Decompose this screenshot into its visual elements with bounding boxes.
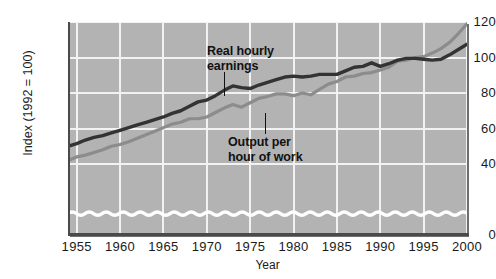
axis-break-wave xyxy=(68,212,467,215)
x-tick-label: 2000 xyxy=(437,239,496,254)
y-tick-label: 60 xyxy=(434,121,496,136)
y-tick-label: 40 xyxy=(434,156,496,171)
leader-line-earnings xyxy=(224,72,225,96)
y-axis-label: Index (1992 = 100) xyxy=(21,13,35,193)
leader-line-output xyxy=(265,113,266,134)
chart-figure: 0406080100120 19551960196519701975198019… xyxy=(0,0,496,279)
annotation-real-hourly-earnings: Real hourly earnings xyxy=(207,44,274,74)
x-axis-label: Year xyxy=(68,258,467,272)
annotation-output-line2: hour of work xyxy=(228,150,303,165)
y-tick-label: 120 xyxy=(434,14,496,29)
annotation-earnings-line2: earnings xyxy=(207,59,274,74)
annotation-output-per-hour: Output per hour of work xyxy=(228,135,303,165)
annotation-earnings-line1: Real hourly xyxy=(207,44,274,59)
annotation-output-line1: Output per xyxy=(228,135,303,150)
x-axis-line xyxy=(68,233,469,236)
y-tick-label: 100 xyxy=(434,50,496,65)
y-tick-label: 80 xyxy=(434,85,496,100)
